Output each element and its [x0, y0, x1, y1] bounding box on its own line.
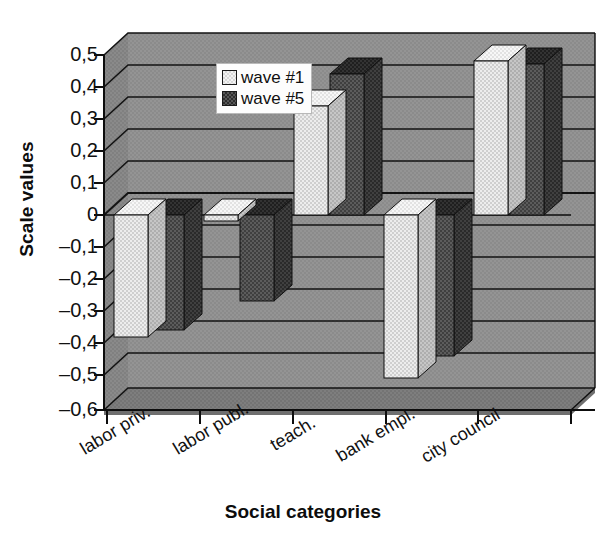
y-tick-label: –0,5 [28, 364, 98, 384]
y-tick-label: 0 [28, 204, 98, 224]
y-tick-label: –0,3 [28, 300, 98, 320]
x-axis-title: Social categories [0, 501, 606, 523]
y-axis-tick-labels: 0,5 0,4 0,3 0,2 0,1 0 –0,1 –0,2 –0,3 –0,… [28, 0, 98, 549]
bar-group-city-council[interactable] [474, 45, 562, 215]
y-tick-label: 0,5 [28, 44, 98, 64]
bar-labor-publ-wave5[interactable] [240, 199, 292, 301]
bar-city-council-wave1[interactable] [474, 45, 526, 215]
legend-label-wave-5: wave #5 [241, 90, 304, 107]
bar-group-bank-empl[interactable] [384, 199, 472, 378]
y-tick-label: 0,2 [28, 140, 98, 160]
legend-item-wave-1[interactable]: wave #1 [222, 67, 304, 88]
legend-swatch-icon-wave-1 [222, 70, 237, 85]
legend[interactable]: wave #1 wave #5 [216, 63, 312, 114]
legend-label-wave-1: wave #1 [241, 69, 304, 86]
bar-labor-priv-wave1[interactable] [114, 199, 166, 337]
y-tick-label: –0,6 [28, 399, 98, 419]
bar-group-labor-priv[interactable] [114, 199, 202, 337]
y-tick-label: 0,1 [28, 172, 98, 192]
legend-item-wave-5[interactable]: wave #5 [222, 88, 304, 109]
y-tick-label: 0,4 [28, 76, 98, 96]
y-axis-title: Scale values [16, 114, 38, 284]
y-tick-label: –0,2 [28, 268, 98, 288]
y-tick-label: 0,3 [28, 108, 98, 128]
y-tick-label: –0,1 [28, 236, 98, 256]
bar-chart: 0,5 0,4 0,3 0,2 0,1 0 –0,1 –0,2 –0,3 –0,… [0, 0, 606, 549]
y-tick-label: –0,4 [28, 332, 98, 352]
legend-swatch-icon-wave-5 [222, 91, 237, 106]
bar-bank-empl-wave1[interactable] [384, 199, 436, 378]
